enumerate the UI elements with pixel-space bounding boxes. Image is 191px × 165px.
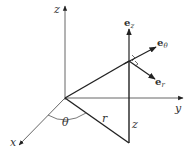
- radius-label: r: [102, 112, 108, 125]
- x-axis-label: x: [10, 136, 17, 149]
- theta-label: θ: [62, 116, 69, 129]
- e-r-arrow: [129, 61, 155, 79]
- geometry: [48, 55, 138, 143]
- e-r-label: er: [155, 76, 165, 89]
- origin-to-point-line: [65, 61, 129, 98]
- z-axis-label: z: [53, 3, 60, 16]
- height-label: z: [131, 118, 138, 131]
- x-axis: [19, 98, 65, 145]
- radius-line: [65, 98, 129, 143]
- e-z-label: ez: [124, 17, 134, 30]
- cylindrical-coordinate-diagram: z y x θ r z ez eθ er: [0, 0, 191, 165]
- e-theta-label: eθ: [157, 37, 168, 50]
- y-axis-label: y: [174, 102, 182, 115]
